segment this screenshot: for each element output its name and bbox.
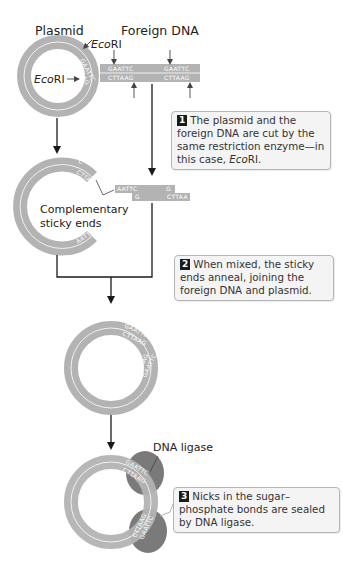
plasmid-header: Plasmid [35, 23, 84, 38]
foreign-dna-bar: GAATTC CTTAAG GAATTC CTTAAG [100, 64, 200, 82]
svg-text:G: G [135, 193, 140, 200]
ecori-label-inner: EcoRI [34, 73, 65, 86]
complementary-sticky-ends-label: Complementary sticky ends [40, 203, 128, 231]
svg-text:GAATTC: GAATTC [164, 65, 189, 72]
foreign-fragment: AATTC G G CTTAA [115, 185, 190, 201]
step3-callout: 3Nicks in the sugar–phosphate bonds are … [173, 487, 340, 533]
step2-callout: 2When mixed, the sticky ends anneal, joi… [174, 255, 334, 301]
ecori-label-upper: EcoRI [91, 38, 122, 51]
svg-text:AATTC: AATTC [117, 185, 137, 192]
foreign-dna-header: Foreign DNA [121, 23, 199, 38]
svg-text:GAATTC: GAATTC [108, 65, 133, 72]
svg-text:CTTAAG: CTTAAG [164, 74, 190, 81]
step3-number-badge: 3 [179, 491, 189, 502]
recombinant-plasmid-ring: GAATTC CTTAAG GAATTC CTTAAG [71, 322, 158, 408]
sticky-ends-leader-line [96, 180, 114, 195]
step1-number-badge: 1 [177, 115, 187, 126]
svg-text:CTTAA: CTTAA [167, 193, 188, 200]
dna-ligase-label: DNA ligase [153, 441, 213, 454]
step2-number-badge: 2 [180, 259, 190, 270]
svg-text:CTTAAG: CTTAAG [108, 74, 134, 81]
step1-callout: 1The plasmid and the foreign DNA are cut… [171, 111, 331, 170]
svg-text:G: G [166, 185, 171, 192]
